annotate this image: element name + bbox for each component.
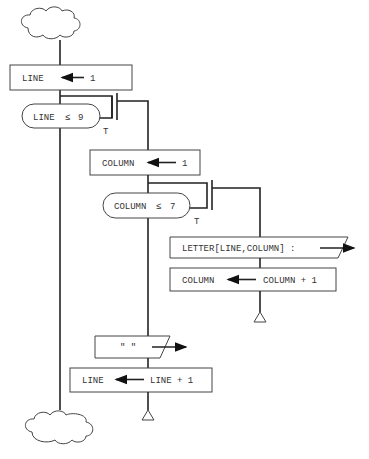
condition-op: ≤: [65, 113, 70, 123]
condition-var: LINE: [33, 113, 55, 123]
init-line-value: 1: [90, 74, 95, 84]
start-cloud-icon: [21, 7, 80, 39]
line-loop-end-triangle-icon: [142, 410, 154, 420]
inc-column-target: COLUMN: [182, 276, 214, 286]
init-column-box: COLUMN 1: [90, 150, 200, 175]
condition-val: 7: [170, 202, 175, 212]
output-letter-box: LETTER[LINE,COLUMN] :: [170, 237, 354, 258]
true-label: T: [103, 127, 109, 137]
inc-line-value: LINE + 1: [150, 376, 193, 386]
condition-op: ≤: [156, 202, 161, 212]
init-line-target: LINE: [22, 74, 44, 84]
init-line-box: LINE 1: [10, 65, 132, 90]
true-label: T: [194, 217, 200, 227]
loop-line-decision: LINE ≤ 9: [22, 104, 100, 128]
init-column-value: 1: [182, 159, 187, 169]
inc-column-box: COLUMN COLUMN + 1: [170, 268, 336, 291]
connector: [212, 188, 260, 237]
output-letter-text: LETTER[LINE,COLUMN] :: [182, 244, 295, 254]
output-blank-box: " ": [95, 336, 186, 358]
loop-column-decision: COLUMN ≤ 7: [103, 193, 190, 218]
inc-line-box: LINE LINE + 1: [70, 368, 212, 392]
connector: [117, 101, 148, 150]
init-column-target: COLUMN: [102, 159, 134, 169]
flowchart: LINE 1 LINE ≤ 9 T COLUMN 1 COLUMN ≤ 7 T …: [0, 0, 369, 459]
condition-var: COLUMN: [114, 202, 146, 212]
end-cloud-icon: [25, 411, 92, 444]
output-blank-text: " ": [120, 343, 136, 353]
inc-column-value: COLUMN + 1: [263, 276, 317, 286]
column-loop-end-triangle-icon: [254, 312, 266, 322]
condition-val: 9: [78, 113, 83, 123]
inc-line-target: LINE: [82, 376, 104, 386]
